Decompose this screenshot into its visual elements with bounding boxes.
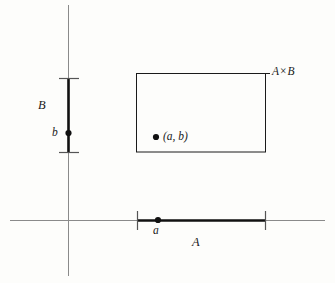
label-set-b: B	[38, 99, 46, 112]
label-product-set-b: B	[288, 65, 295, 77]
label-product-set: A×B	[272, 66, 295, 78]
cartesian-product-figure: B b A a (a, b) A×B	[0, 0, 335, 283]
label-element-b: b	[52, 127, 58, 139]
point-b-dot	[65, 130, 71, 136]
multiplication-sign-icon: ×	[279, 65, 288, 77]
product-rectangle	[137, 74, 266, 153]
point-a-dot	[155, 217, 161, 223]
label-ordered-pair: (a, b)	[163, 131, 188, 143]
label-element-a: a	[153, 225, 159, 237]
label-set-a: A	[192, 236, 200, 249]
point-ab-dot	[153, 134, 159, 140]
label-product-set-a: A	[272, 65, 279, 77]
